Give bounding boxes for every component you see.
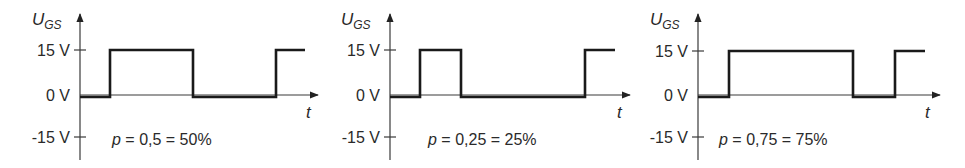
x-axis-label: t [925,103,931,122]
tick-label-minus-15v: -15 V [342,129,381,146]
y-axis-label: UGS [341,10,371,32]
chart-panel-25-percent: UGS 15 V 0 V -15 V t p = 0,25 = 25% [341,10,630,160]
duty-cycle-label: p = 0,75 = 75% [718,131,828,148]
tick-label-15v: 15 V [37,42,70,59]
y-axis-label: UGS [650,10,680,32]
chart-panel-50-percent: UGS 15 V 0 V -15 V t p = 0,5 = 50% [32,10,318,160]
chart-panel-75-percent: UGS 15 V 0 V -15 V t p = 0,75 = 75% [650,10,940,160]
pwm-signal [80,50,305,97]
x-axis-label: t [306,103,312,122]
tick-label-0v: 0 V [46,87,70,104]
tick-label-0v: 0 V [356,87,380,104]
tick-label-0v: 0 V [664,87,688,104]
pwm-signal [698,51,925,97]
pwm-figure: UGS 15 V 0 V -15 V t p = 0,5 = 50% UGS 1… [0,0,965,168]
tick-label-15v: 15 V [655,43,688,60]
y-axis-label: UGS [32,10,62,32]
pwm-signal [390,50,615,97]
x-axis-label: t [617,103,623,122]
duty-cycle-label: p = 0,5 = 50% [111,131,212,148]
tick-label-15v: 15 V [347,42,380,59]
duty-cycle-label: p = 0,25 = 25% [427,131,537,148]
tick-label-minus-15v: -15 V [32,129,71,146]
tick-label-minus-15v: -15 V [650,129,689,146]
